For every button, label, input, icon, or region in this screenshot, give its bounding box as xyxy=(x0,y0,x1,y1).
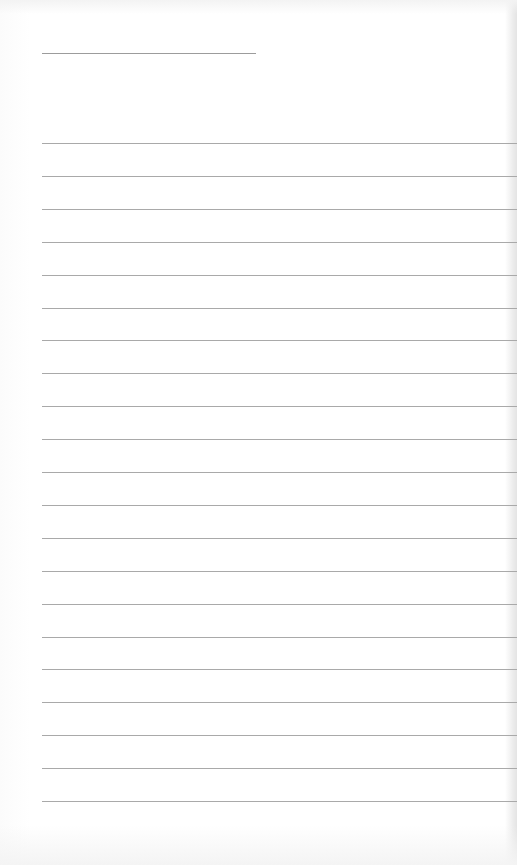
ruled-line xyxy=(42,308,517,309)
ruled-line xyxy=(42,637,517,638)
ruled-line xyxy=(42,242,517,243)
ruled-line xyxy=(42,571,517,572)
ruled-line xyxy=(42,340,517,341)
ruled-line xyxy=(42,604,517,605)
ruled-line xyxy=(42,735,517,736)
bottom-edge-shade xyxy=(0,825,517,865)
ruled-line xyxy=(42,768,517,769)
ruled-line xyxy=(42,373,517,374)
ruled-line xyxy=(42,801,517,802)
ruled-line xyxy=(42,439,517,440)
ruled-line xyxy=(42,472,517,473)
ruled-line xyxy=(42,669,517,670)
header-blank-line xyxy=(42,53,256,54)
ruled-line xyxy=(42,209,517,210)
ruled-line xyxy=(42,275,517,276)
ruled-line xyxy=(42,702,517,703)
ruled-line xyxy=(42,505,517,506)
top-edge-shade xyxy=(0,0,517,14)
ruled-line xyxy=(42,143,517,144)
lined-paper-page xyxy=(0,0,517,865)
ruled-line xyxy=(42,538,517,539)
ruled-line xyxy=(42,406,517,407)
ruled-line xyxy=(42,176,517,177)
